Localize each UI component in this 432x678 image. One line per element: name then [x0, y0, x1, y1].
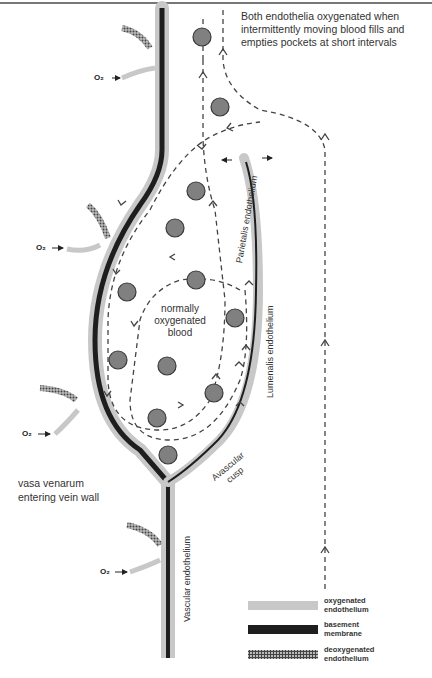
basement-swatch	[248, 625, 318, 634]
vasa-venarum-label: vasa venarum entering vein wall	[18, 476, 99, 504]
legend-item-oxygenated: oxygenated endothelium	[248, 596, 384, 614]
flow-lines	[108, 10, 325, 590]
legend-label-line: deoxygenated	[324, 645, 384, 654]
legend-label-line: basement	[324, 620, 384, 629]
diagram-canvas: Both endothelia oxygenated when intermit…	[0, 0, 432, 678]
legend-label: basement membrane	[324, 620, 384, 638]
legend-label-line: endothelium	[324, 654, 384, 663]
caption-text: Both endothelia oxygenated when intermit…	[241, 10, 431, 49]
legend-label-line: oxygenated	[324, 596, 384, 605]
legend-label-line: membrane	[324, 629, 384, 638]
o2-label: O₂	[100, 567, 110, 576]
center-label-line: blood	[140, 327, 220, 339]
legend-label: oxygenated endothelium	[324, 596, 384, 614]
center-label-line: normally	[140, 303, 220, 315]
vein-valve-diagram	[0, 0, 432, 678]
legend-label: deoxygenated endothelium	[324, 645, 384, 663]
o2-label: O₂	[36, 243, 46, 252]
center-label: normally oxygenated blood	[140, 303, 220, 339]
vasa-label-line: vasa venarum	[18, 476, 99, 490]
o2-label: O₂	[94, 73, 104, 82]
legend-label-line: endothelium	[324, 605, 384, 614]
oxygenated-swatch	[248, 601, 318, 610]
center-label-line: oxygenated	[140, 315, 220, 327]
deoxygenated-swatch	[248, 650, 318, 659]
lumenalis-label: Lumenalis endothelium	[265, 305, 275, 398]
legend-item-deoxygenated: deoxygenated endothelium	[248, 645, 384, 663]
legend-item-basement: basement membrane	[248, 620, 384, 638]
o2-label: O₂	[22, 429, 32, 438]
blood-cells	[109, 28, 244, 464]
vascular-label: Vascular endothelium	[182, 536, 192, 622]
vasa-label-line: entering vein wall	[18, 490, 99, 504]
